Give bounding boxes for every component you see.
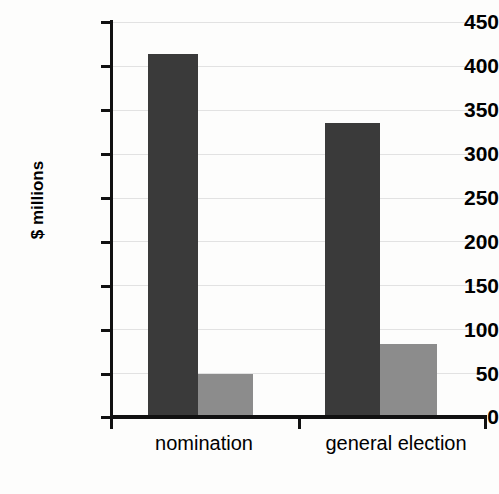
y-tick-100: [101, 329, 112, 332]
y-tick-label-250: 250: [407, 187, 499, 208]
x-tick-label-general-election: general election: [305, 433, 487, 453]
plot-area: [113, 22, 487, 417]
y-tick-label-100: 100: [407, 319, 499, 340]
y-tick-300: [101, 153, 112, 156]
x-tick-label-nomination: nomination: [130, 433, 278, 453]
y-tick-450: [101, 21, 112, 24]
y-tick-250: [101, 197, 112, 200]
y-tick-50: [101, 373, 112, 376]
y-tick-label-350: 350: [407, 99, 499, 120]
y-tick-150: [101, 285, 112, 288]
x-tick-mid-divider: [298, 415, 301, 429]
y-tick-400: [101, 65, 112, 68]
bar-nomination-series-1: [148, 54, 198, 417]
y-tick-label-150: 150: [407, 275, 499, 296]
x-tick-left-edge: [110, 415, 113, 429]
y-tick-350: [101, 109, 112, 112]
y-tick-label-50: 50: [407, 363, 499, 384]
y-axis-line: [110, 20, 113, 419]
bar-chart: $ millions 450 400 350 300 250 200 150 1…: [0, 0, 499, 494]
bar-general-election-series-1: [325, 123, 380, 417]
y-tick-200: [101, 241, 112, 244]
y-tick-label-200: 200: [407, 231, 499, 252]
y-axis-title: $ millions: [28, 140, 48, 260]
x-tick-right-edge: [484, 415, 487, 429]
y-tick-label-400: 400: [407, 55, 499, 76]
bar-nomination-series-2: [198, 374, 253, 417]
y-tick-label-450: 450: [407, 11, 499, 32]
y-tick-label-300: 300: [407, 143, 499, 164]
